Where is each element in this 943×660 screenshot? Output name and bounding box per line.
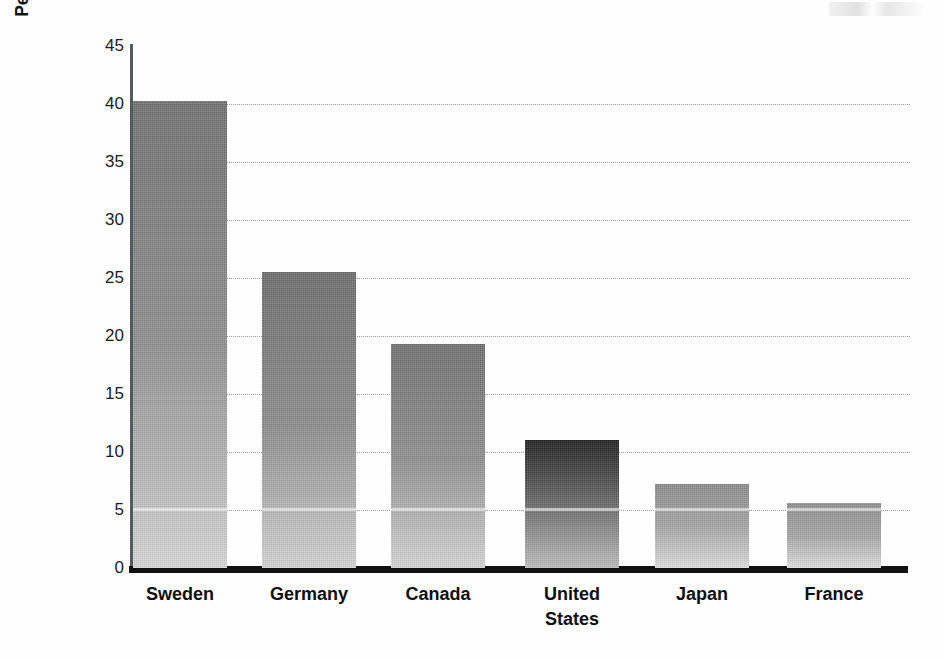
x-axis-tick-label: Germany [234,582,384,607]
x-axis-tick-label: United States [527,582,617,632]
x-axis-tick-labels: SwedenGermanyCanadaUnited StatesJapanFra… [0,0,943,660]
bar-chart-figure: Percentage of females in federal legisla… [0,0,943,660]
x-axis-tick-label: France [759,582,909,607]
x-axis-tick-label: Sweden [105,582,255,607]
x-axis-tick-label: Canada [363,582,513,607]
x-axis-tick-label: Japan [627,582,777,607]
